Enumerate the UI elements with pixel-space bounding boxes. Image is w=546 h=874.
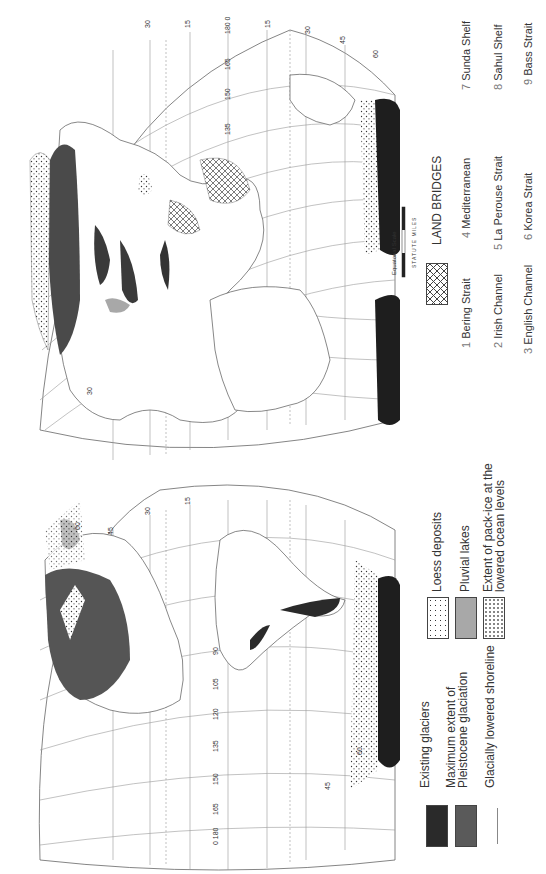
svg-text:30: 30 <box>144 20 151 28</box>
legend-pluvial-lakes: Pluvial lakes <box>458 525 472 592</box>
land-bridge-3: 3 English Channel <box>522 265 534 354</box>
svg-text:60: 60 <box>74 522 81 530</box>
scale-units: STATUTE MILES <box>411 217 417 268</box>
svg-text:135: 135 <box>212 740 219 752</box>
svg-text:45: 45 <box>339 36 346 44</box>
svg-text:15: 15 <box>184 497 191 505</box>
svg-text:150: 150 <box>224 88 231 100</box>
loess-swatch <box>427 597 449 639</box>
svg-text:165: 165 <box>224 58 231 70</box>
land-bridge-6: 6 Korea Strait <box>522 173 534 240</box>
land-bridges-title: LAND BRIDGES <box>430 156 444 245</box>
eastern-hemisphere: 30 30 15 180 0 15 30 45 60 165 150 135 0 <box>30 16 400 540</box>
svg-text:60: 60 <box>372 50 379 58</box>
svg-text:15: 15 <box>184 20 191 28</box>
land-bridges-swatch <box>426 263 448 305</box>
land-bridge-1: 1 Bering Strait <box>460 278 472 348</box>
svg-text:135: 135 <box>224 123 231 135</box>
svg-text:90: 90 <box>212 647 219 655</box>
pluvial-lakes-swatch <box>455 597 477 639</box>
western-hemisphere: 60 45 30 15 0 180 165 150 135 120 105 90… <box>39 485 400 870</box>
svg-text:150: 150 <box>212 773 219 785</box>
land-bridge-4: 4 Mediterranean <box>460 158 472 238</box>
shoreline-line-swatch <box>497 808 498 844</box>
land-bridge-9: 9 Bass Strait <box>522 23 534 85</box>
svg-text:60: 60 <box>356 747 363 755</box>
svg-text:165: 165 <box>212 803 219 815</box>
svg-text:30: 30 <box>304 26 311 34</box>
legend-lowered-shoreline: Glacially lowered shoreline <box>483 645 497 788</box>
svg-text:180 0: 180 0 <box>224 16 231 34</box>
land-bridge-8: 8 Sahul Shelf <box>492 25 504 90</box>
svg-text:0 180: 0 180 <box>212 827 219 845</box>
land-bridge-5: 5 La Perouse Strait <box>492 156 504 250</box>
svg-text:30: 30 <box>144 507 151 515</box>
land-bridge-7: 7 Sunda Shelf <box>460 21 472 90</box>
legend-pack-ice: Extent of pack-ice at the lowered ocean … <box>482 463 506 592</box>
land-bridge-2: 2 Irish Channel <box>492 274 504 348</box>
svg-text:105: 105 <box>212 678 219 690</box>
scale-title: Equatorial Scale <box>391 231 397 275</box>
legend-loess: Loess deposits <box>430 512 444 592</box>
svg-text:45: 45 <box>324 782 331 790</box>
existing-glaciers-swatch <box>426 805 448 847</box>
max-glaciation-swatch <box>455 805 477 847</box>
pack-ice-swatch <box>483 597 505 639</box>
svg-text:30: 30 <box>86 387 93 395</box>
legend-existing-glaciers: Existing glaciers <box>418 701 432 788</box>
scale-bar <box>402 207 405 277</box>
svg-text:120: 120 <box>212 708 219 720</box>
legend-max-glaciation: Maximum extent of Pleistocene glaciation <box>445 672 469 788</box>
svg-text:45: 45 <box>107 527 114 535</box>
svg-text:15: 15 <box>264 20 271 28</box>
